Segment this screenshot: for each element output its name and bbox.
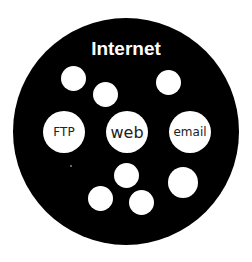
unlabeled-node xyxy=(61,66,86,91)
ftp-node: FTP xyxy=(43,111,85,153)
unlabeled-node xyxy=(88,186,113,211)
unlabeled-node xyxy=(156,70,181,95)
email-node: email xyxy=(169,111,211,153)
unlabeled-node xyxy=(114,163,139,188)
unlabeled-node xyxy=(168,167,198,198)
email-label: email xyxy=(173,125,206,139)
diagram-title: Internet xyxy=(0,38,252,60)
unlabeled-node xyxy=(93,82,118,107)
ftp-label: FTP xyxy=(53,125,74,139)
unlabeled-node xyxy=(129,190,154,215)
web-node: web xyxy=(106,111,148,153)
web-label: web xyxy=(110,123,143,142)
speck xyxy=(70,165,72,167)
